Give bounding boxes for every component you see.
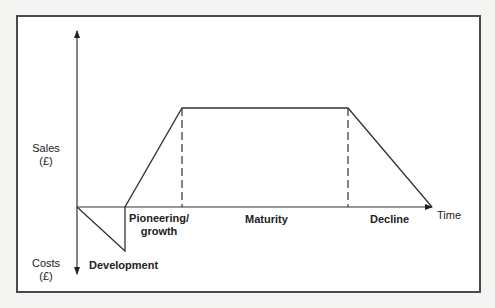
costs-label-text: Costs bbox=[28, 257, 64, 270]
sales-label-text: Sales bbox=[28, 142, 64, 155]
sales-unit-text: (£) bbox=[28, 155, 64, 168]
product-life-cycle-diagram bbox=[0, 0, 495, 308]
costs-axis-label: Costs (£) bbox=[28, 257, 64, 283]
costs-unit-text: (£) bbox=[28, 270, 64, 283]
time-axis-label: Time bbox=[437, 209, 461, 222]
stage-label-pioneering-line1: Pioneering/ bbox=[128, 212, 190, 225]
stage-label-pioneering-growth: Pioneering/ growth bbox=[128, 212, 190, 238]
stage-label-pioneering-line2: growth bbox=[128, 225, 190, 238]
stage-label-decline: Decline bbox=[370, 213, 409, 226]
stage-label-development: Development bbox=[89, 259, 158, 272]
stage-label-maturity: Maturity bbox=[245, 213, 288, 226]
sales-axis-label: Sales (£) bbox=[28, 142, 64, 168]
